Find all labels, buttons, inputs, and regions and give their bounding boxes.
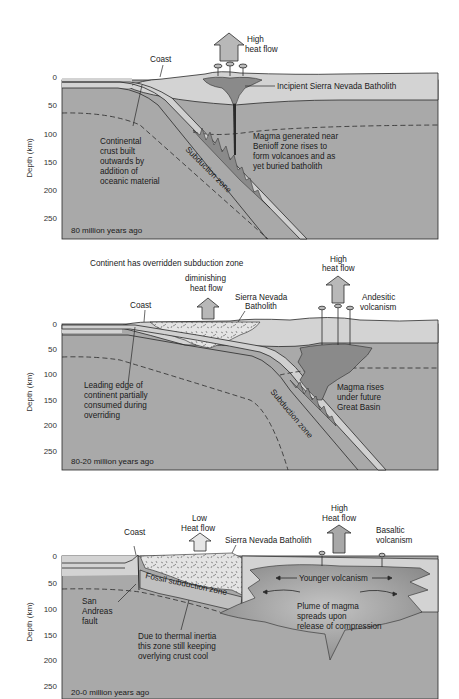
svg-text:oceanic material: oceanic material — [100, 177, 160, 186]
svg-text:consumed during: consumed during — [84, 401, 147, 410]
svg-text:50: 50 — [48, 579, 57, 588]
svg-text:Depth (km): Depth (km) — [25, 602, 34, 642]
svg-text:250: 250 — [44, 682, 58, 691]
svg-text:High: High — [247, 35, 264, 44]
svg-text:Plume of magma: Plume of magma — [297, 602, 359, 611]
younger-volcanism-label: Younger volcanism — [299, 574, 368, 583]
svg-text:crust built: crust built — [100, 147, 136, 156]
svg-text:50: 50 — [48, 101, 57, 110]
svg-text:200: 200 — [44, 656, 58, 665]
svg-text:heat flow: heat flow — [190, 284, 223, 293]
svg-text:Andesitic: Andesitic — [362, 293, 395, 302]
svg-text:continent partially: continent partially — [84, 391, 149, 400]
svg-text:Andreas: Andreas — [82, 607, 113, 616]
coast-label: Coast — [150, 55, 172, 64]
svg-text:Sierra Nevada: Sierra Nevada — [235, 293, 288, 302]
high-heat-flow-arrow — [326, 276, 350, 303]
svg-text:form volcanoes and as: form volcanoes and as — [253, 152, 335, 161]
svg-text:Great Basin: Great Basin — [337, 403, 381, 412]
svg-text:0: 0 — [53, 73, 58, 82]
svg-text:fault: fault — [82, 617, 98, 626]
depth-axis-1: 0 50 100 150 200 250 Depth (km) — [25, 73, 58, 223]
svg-text:0: 0 — [53, 320, 58, 329]
batholith-label: Sierra Nevada Batholith — [225, 536, 312, 545]
panel-80-mya: 0 50 100 150 200 250 Depth (km) Coast Hi… — [25, 33, 438, 239]
svg-text:heat flow: heat flow — [322, 264, 355, 273]
svg-text:diminishing: diminishing — [185, 274, 226, 283]
svg-text:High: High — [330, 255, 347, 264]
svg-text:release of compression: release of compression — [297, 622, 382, 631]
svg-text:under future: under future — [337, 393, 382, 402]
svg-text:volcanism: volcanism — [376, 536, 413, 545]
svg-text:250: 250 — [44, 214, 58, 223]
coast-label: Coast — [124, 528, 146, 537]
diminishing-heat-arrow — [197, 298, 219, 319]
coast-label: Coast — [130, 301, 152, 310]
svg-text:Depth (km): Depth (km) — [25, 372, 34, 412]
svg-text:50: 50 — [48, 345, 57, 354]
svg-text:addition of: addition of — [100, 167, 139, 176]
svg-text:outwards by: outwards by — [100, 157, 145, 166]
svg-text:Low: Low — [192, 514, 207, 523]
age-label: 20-0 million years ago — [71, 688, 150, 697]
low-heat-flow-arrow — [189, 533, 211, 551]
high-heat-flow-arrow — [214, 33, 244, 61]
panel-title: Continent has overridden subduction zone — [90, 259, 244, 268]
svg-text:Heat flow: Heat flow — [322, 514, 356, 523]
svg-text:this zone still keeping: this zone still keeping — [138, 642, 216, 651]
svg-text:Heat flow: Heat flow — [181, 524, 215, 533]
age-label: 80-20 million years ago — [71, 457, 154, 466]
svg-text:Benioff zone rises to: Benioff zone rises to — [253, 142, 327, 151]
svg-text:100: 100 — [44, 370, 58, 379]
svg-text:150: 150 — [44, 631, 58, 640]
depth-axis-3: 0 50 100 150 200 250 Depth (km) — [25, 552, 58, 691]
svg-text:250: 250 — [44, 447, 58, 456]
svg-text:200: 200 — [44, 421, 58, 430]
svg-text:Leading edge of: Leading edge of — [84, 381, 143, 390]
age-label: 80 million years ago — [71, 226, 143, 235]
svg-text:volcanism: volcanism — [360, 303, 397, 312]
svg-text:heat flow: heat flow — [245, 45, 278, 54]
batholith-label: Incipient Sierra Nevada Batholith — [277, 82, 397, 91]
svg-text:Magma generated near: Magma generated near — [253, 132, 338, 141]
panel-20-0-mya: 0 50 100 150 200 250 Depth (km) Coast Lo… — [25, 504, 438, 699]
subduction-diagram: 0 50 100 150 200 250 Depth (km) Coast Hi… — [0, 0, 459, 699]
panel-80-20-mya: 0 50 100 150 200 250 Depth (km) Continen… — [25, 255, 438, 470]
svg-text:150: 150 — [44, 396, 58, 405]
svg-text:100: 100 — [44, 130, 58, 139]
svg-text:100: 100 — [44, 605, 58, 614]
svg-text:overlying crust cool: overlying crust cool — [138, 652, 208, 661]
oceanic-crust — [62, 78, 132, 88]
high-heat-flow-arrow — [327, 525, 351, 553]
svg-text:Batholith: Batholith — [245, 302, 277, 311]
svg-text:Continental: Continental — [100, 137, 142, 146]
svg-text:0: 0 — [53, 552, 58, 561]
svg-text:High: High — [331, 504, 348, 513]
svg-text:overriding: overriding — [84, 411, 120, 420]
svg-text:Basaltic: Basaltic — [376, 526, 405, 535]
svg-text:Due to thermal inertia: Due to thermal inertia — [138, 632, 217, 641]
svg-text:Depth (km): Depth (km) — [25, 138, 34, 178]
svg-text:Magma rises: Magma rises — [337, 383, 384, 392]
svg-text:150: 150 — [44, 158, 58, 167]
svg-text:200: 200 — [44, 186, 58, 195]
svg-text:San: San — [82, 597, 97, 606]
svg-text:spreads upon: spreads upon — [297, 612, 347, 621]
svg-text:yet buried batholith: yet buried batholith — [253, 162, 323, 171]
depth-axis-2: 0 50 100 150 200 250 Depth (km) — [25, 320, 58, 456]
